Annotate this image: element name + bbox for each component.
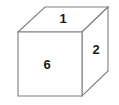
cube-face-top-label: 1 <box>59 11 66 26</box>
cube-diagram: 1 2 6 <box>0 0 119 105</box>
cube-svg-canvas: 1 2 6 <box>0 0 119 105</box>
cube-face-right-label: 2 <box>92 42 99 57</box>
cube-face-front-label: 6 <box>43 57 50 72</box>
